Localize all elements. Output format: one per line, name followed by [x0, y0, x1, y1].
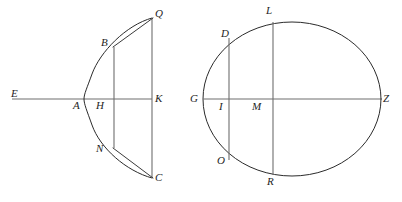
label-point-G: G — [190, 93, 198, 104]
label-point-D: D — [221, 28, 229, 39]
label-point-E: E — [11, 88, 18, 99]
label-point-M: M — [252, 101, 261, 112]
label-point-Z: Z — [383, 93, 389, 104]
label-point-N: N — [96, 143, 103, 154]
label-point-K: K — [155, 93, 162, 104]
ellipse-group — [203, 22, 381, 176]
chord-line-BQ — [113, 18, 153, 47]
label-point-O: O — [217, 155, 225, 166]
geometry-figure: E A H K B Q N C G I M Z D L O R — [0, 0, 402, 202]
label-point-A: A — [73, 100, 80, 111]
label-point-L: L — [266, 5, 272, 16]
label-point-R: R — [267, 176, 274, 187]
geometry-canvas — [0, 0, 402, 202]
label-point-I: I — [219, 101, 223, 112]
parabola-group — [12, 18, 153, 178]
label-point-H: H — [96, 100, 104, 111]
label-point-C: C — [155, 172, 162, 183]
chord-line-NC — [113, 148, 153, 178]
label-point-B: B — [101, 37, 108, 48]
label-point-Q: Q — [155, 8, 163, 19]
parabola-curve — [84, 18, 152, 178]
